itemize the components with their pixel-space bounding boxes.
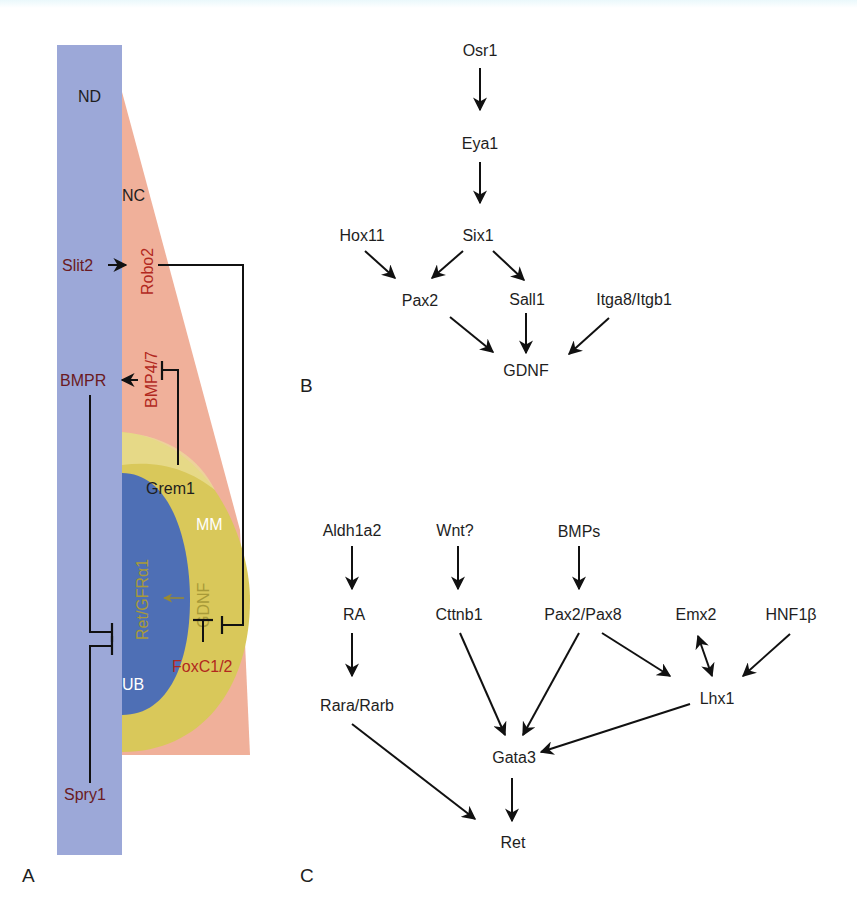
- node-pax2: Pax2: [402, 292, 439, 309]
- node-sall1: Sall1: [509, 291, 545, 308]
- gene-grem1: Grem1: [146, 480, 195, 497]
- panel-b: Osr1 Eya1 Six1 Hox11 Pax2 Sall1 Itga8/It…: [300, 42, 672, 396]
- node-gdnf: GDNF: [503, 362, 549, 379]
- gene-bmpr: BMPR: [60, 372, 106, 389]
- edge-six1-sall1: [493, 251, 524, 280]
- edge-itga8-gdnf: [569, 318, 609, 354]
- node-aldh1a2: Aldh1a2: [323, 522, 382, 539]
- edge-pax2-gdnf: [450, 317, 493, 352]
- node-cttnb1: Cttnb1: [435, 606, 482, 623]
- gene-spry1: Spry1: [64, 786, 106, 803]
- edge-lhx1-gata3: [541, 704, 690, 752]
- node-emx2: Emx2: [676, 606, 717, 623]
- node-gata3: Gata3: [492, 749, 536, 766]
- panel-label-a: A: [22, 865, 35, 886]
- edge-emx2-lhx1: [698, 636, 712, 676]
- node-six1: Six1: [462, 227, 493, 244]
- node-ret: Ret: [501, 834, 526, 851]
- panel-label-c: C: [300, 865, 314, 886]
- gene-slit2: Slit2: [62, 257, 93, 274]
- label-ub: UB: [122, 676, 144, 693]
- node-bmps: BMPs: [558, 523, 601, 540]
- node-rara-rarb: Rara/Rarb: [320, 697, 394, 714]
- edge-hnf1b-lhx1: [743, 634, 790, 676]
- edge-six1-pax2: [432, 251, 463, 278]
- panel-a: ND NC MM UB Slit2 Robo2 BMPR BMP4/7 Grem…: [22, 45, 250, 886]
- edge-pax28-lhx1: [602, 633, 670, 676]
- edge-pax28-gata3: [523, 633, 579, 735]
- edge-hox11-pax2: [365, 251, 395, 278]
- gene-foxc12: FoxC1/2: [172, 658, 233, 675]
- gene-robo2: Robo2: [139, 248, 156, 295]
- node-eya1: Eya1: [462, 135, 499, 152]
- gene-bmp47: BMP4/7: [143, 351, 160, 408]
- panel-label-b: B: [300, 375, 313, 396]
- node-wnt: Wnt?: [436, 522, 473, 539]
- figure-canvas: ND NC MM UB Slit2 Robo2 BMPR BMP4/7 Grem…: [0, 0, 857, 904]
- node-hox11: Hox11: [339, 227, 384, 244]
- edge-rara-ret: [352, 724, 475, 819]
- node-pax2-pax8: Pax2/Pax8: [544, 606, 621, 623]
- gene-ret-gfra1: Ret/GFRα1: [134, 559, 151, 640]
- label-mm: MM: [196, 516, 223, 533]
- node-lhx1: Lhx1: [700, 690, 735, 707]
- label-nd: ND: [78, 88, 101, 105]
- node-hnf1b: HNF1β: [766, 606, 817, 623]
- node-osr1: Osr1: [463, 42, 498, 59]
- edge-cttnb1-gata3: [460, 633, 505, 735]
- label-nc: NC: [122, 187, 145, 204]
- panel-c: Aldh1a2 Wnt? BMPs RA Cttnb1 Pax2/Pax8 Em…: [300, 522, 816, 886]
- node-ra: RA: [343, 606, 366, 623]
- node-itga8-itgb1: Itga8/Itgb1: [596, 291, 672, 308]
